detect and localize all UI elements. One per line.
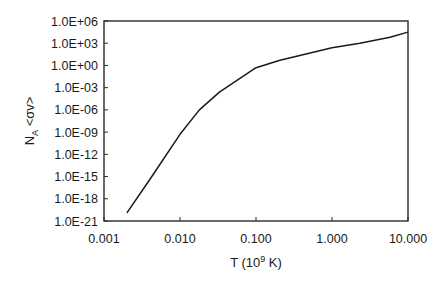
y-tick-label: 1.0E+03 [51,37,98,51]
y-tick-label: 1.0E+06 [51,15,98,29]
chart-canvas: 1.0E+061.0E+031.0E+001.0E-031.0E-061.0E-… [0,0,447,282]
data-line [127,32,408,213]
y-tick-label: 1.0E-12 [54,148,98,162]
y-tick-label: 1.0E+00 [51,59,98,73]
y-tick-label: 1.0E-21 [54,215,98,229]
y-axis-title: NA <σv> [22,97,40,146]
plot-border [104,21,408,221]
y-tick-label: 1.0E-03 [54,81,98,95]
x-tick-label: 0.001 [88,232,119,246]
x-tick-label: 1.000 [316,232,347,246]
y-tick-label: 1.0E-18 [54,192,98,206]
x-tick-label: 10.000 [389,232,427,246]
x-axis-title: T (109 K) [230,254,282,270]
y-tick-label: 1.0E-15 [54,170,98,184]
y-tick-label: 1.0E-06 [54,103,98,117]
x-tick-label: 0.010 [164,232,195,246]
plot-frame [104,21,408,221]
x-tick-label: 0.100 [240,232,271,246]
y-axis: 1.0E+061.0E+031.0E+001.0E-031.0E-061.0E-… [51,15,108,229]
y-tick-label: 1.0E-09 [54,126,98,140]
